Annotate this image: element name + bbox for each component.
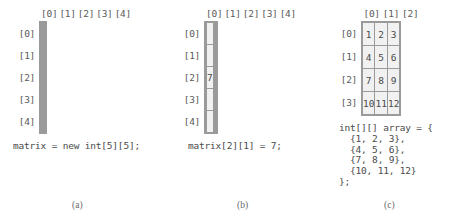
matrix-cell[interactable]: 4: [363, 46, 375, 69]
table-row: 7 8 9: [363, 69, 400, 92]
row-label: [0]: [10, 28, 35, 39]
column-header: [4]: [114, 8, 132, 19]
row-label: [1]: [332, 51, 357, 62]
array-diagram-figure: [0] [1] [2] [3] [4] [0] [1] [2] [3] [4]: [0, 0, 461, 221]
matrix-cell[interactable]: [45, 45, 46, 67]
row-label: [0]: [175, 28, 200, 39]
table-row: [41, 23, 46, 45]
column-header: [1]: [58, 8, 76, 19]
table-row: 4 5 6: [363, 46, 400, 69]
matrix-cell[interactable]: [215, 89, 216, 111]
table-row: [206, 89, 217, 111]
matrix-cell[interactable]: 1: [363, 23, 375, 46]
matrix-cell[interactable]: [207, 45, 214, 67]
table-row: [41, 89, 46, 111]
matrix-cell[interactable]: [45, 23, 46, 45]
row-label: [4]: [10, 116, 35, 127]
column-header: [3]: [260, 8, 278, 19]
matrix-cell[interactable]: [215, 23, 216, 45]
matrix-cell[interactable]: 2: [375, 23, 387, 46]
matrix-cell[interactable]: 11: [375, 92, 387, 115]
table-row: [206, 111, 217, 133]
matrix-cell[interactable]: [215, 45, 216, 67]
table-row: [206, 23, 217, 45]
row-label: [3]: [175, 94, 200, 105]
panel-b-caption: (b): [237, 200, 248, 210]
row-label: [2]: [10, 72, 35, 83]
matrix-cell[interactable]: 12: [387, 92, 399, 115]
row-label: [3]: [332, 97, 357, 108]
matrix-grid-c: 1 2 3 4 5 6 7 8 9 10 11 12: [362, 22, 400, 115]
column-header: [4]: [279, 8, 297, 19]
column-header: [0]: [362, 8, 381, 19]
panel-b-code: matrix[2][1] = 7;: [188, 141, 282, 152]
table-row: [41, 111, 46, 133]
row-label: [1]: [10, 50, 35, 61]
row-label: [0]: [332, 28, 357, 39]
panel-b-column-headers: [0] [1] [2] [3] [4]: [205, 8, 297, 19]
row-label: [3]: [10, 94, 35, 105]
matrix-cell[interactable]: [45, 111, 46, 133]
panel-a-code: matrix = new int[5][5];: [13, 141, 140, 152]
matrix-cell[interactable]: 5: [375, 46, 387, 69]
matrix-cell[interactable]: [215, 111, 216, 133]
row-label: [1]: [175, 50, 200, 61]
table-row: 10 11 12: [363, 92, 400, 115]
panel-a-caption: (a): [72, 200, 83, 210]
column-header: [2]: [77, 8, 95, 19]
matrix-cell[interactable]: 3: [387, 23, 399, 46]
matrix-cell[interactable]: 6: [387, 46, 399, 69]
matrix-cell[interactable]: [45, 89, 46, 111]
matrix-cell[interactable]: 8: [375, 69, 387, 92]
table-row: 1 2 3: [363, 23, 400, 46]
matrix-cell[interactable]: [207, 89, 214, 111]
matrix-cell[interactable]: 10: [363, 92, 375, 115]
table-row: 7: [206, 67, 217, 89]
row-label: [2]: [175, 72, 200, 83]
matrix-cell[interactable]: [207, 23, 214, 45]
column-header: [1]: [223, 8, 241, 19]
row-label: [2]: [332, 74, 357, 85]
matrix-cell[interactable]: [215, 67, 216, 89]
matrix-cell[interactable]: 9: [387, 69, 399, 92]
panel-c-column-headers: [0] [1] [2]: [362, 8, 420, 19]
column-header: [1]: [381, 8, 400, 19]
matrix-cell[interactable]: 7: [363, 69, 375, 92]
matrix-cell[interactable]: [45, 67, 46, 89]
matrix-cell[interactable]: [207, 111, 214, 133]
panel-a-column-headers: [0] [1] [2] [3] [4]: [40, 8, 132, 19]
column-header: [0]: [40, 8, 58, 19]
panel-c-code: int[][] array = { {1, 2, 3}, {4, 5, 6}, …: [339, 123, 433, 188]
table-row: [41, 67, 46, 89]
panel-c-caption: (c): [384, 200, 395, 210]
column-header: [2]: [401, 8, 420, 19]
table-row: [41, 45, 46, 67]
row-label: [4]: [175, 116, 200, 127]
column-header: [3]: [95, 8, 113, 19]
column-header: [0]: [205, 8, 223, 19]
table-row: [206, 45, 217, 67]
column-header: [2]: [242, 8, 260, 19]
matrix-grid-a: [40, 22, 46, 133]
matrix-grid-b: 7: [205, 22, 217, 133]
matrix-cell-highlighted[interactable]: 7: [207, 67, 214, 89]
